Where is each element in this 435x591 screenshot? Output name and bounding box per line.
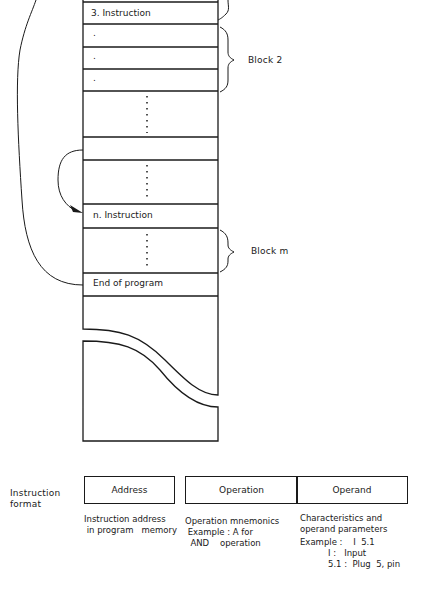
arrow-head-icon xyxy=(70,205,83,213)
memory-lower-tear xyxy=(83,341,218,441)
field-operand: Operand xyxy=(296,476,408,504)
operand-example-i: I : Input xyxy=(328,548,366,559)
brace-block2 xyxy=(220,27,234,92)
row-dot-3: . xyxy=(93,73,96,83)
row-dot-1: . xyxy=(93,28,96,38)
instruction-format-title-1: Instruction xyxy=(10,488,60,499)
operand-description-2: operand parameters xyxy=(300,524,387,535)
field-operation-label: Operation xyxy=(219,485,264,495)
field-operand-label: Operand xyxy=(333,485,372,495)
operand-description-1: Characteristics and xyxy=(300,513,382,524)
field-address: Address xyxy=(84,476,175,504)
loop-arrow-line xyxy=(17,0,83,285)
brace-blockm xyxy=(220,230,234,272)
brace-block1 xyxy=(218,0,229,20)
row-end-of-program: End of program xyxy=(93,278,163,288)
block-m-label: Block m xyxy=(251,246,288,257)
row-3-instruction: 3. Instruction xyxy=(91,8,151,18)
memory-upper-tear xyxy=(83,296,218,395)
jump-arrow-line xyxy=(58,150,83,211)
operand-example-51: 5.1 : Plug 5, pin xyxy=(328,559,400,570)
instruction-format-title-2: format xyxy=(10,499,41,510)
operand-example: Example : I 5.1 xyxy=(300,537,375,548)
field-address-label: Address xyxy=(112,485,148,495)
address-description: Instruction address in program memory xyxy=(84,514,177,536)
field-operation: Operation xyxy=(185,476,298,504)
block-2-label: Block 2 xyxy=(248,55,282,66)
operation-description: Operation mnemonics Example : A for AND … xyxy=(185,516,279,549)
row-dot-2: . xyxy=(93,51,96,61)
row-n-instruction: n. Instruction xyxy=(93,210,153,220)
